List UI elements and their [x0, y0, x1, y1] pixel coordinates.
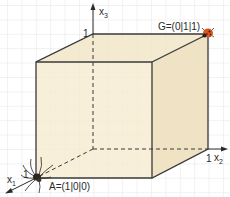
cube — [36, 34, 208, 178]
point-a-label: A=(1|0|0) — [49, 181, 90, 192]
cube-diagram: x3 1 1 x2 x1 1 G=(0|1|1) — [0, 0, 230, 197]
point-g-label: G=(0|1|1) — [158, 21, 200, 32]
ladybug-icon — [202, 28, 214, 38]
face-grid-overlay — [36, 34, 208, 178]
axis-x3-tick: 1 — [83, 28, 89, 39]
axis-x2-tick: 1 — [206, 153, 212, 164]
